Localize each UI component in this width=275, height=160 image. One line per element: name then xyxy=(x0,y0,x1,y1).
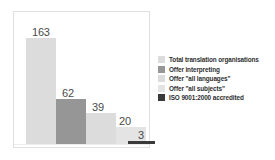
legend-swatch-icon xyxy=(158,75,165,82)
legend-swatch-icon xyxy=(158,94,165,101)
bar-total-translation-organisations xyxy=(26,38,56,144)
legend-item-offer-interpreting: Offer interpreting xyxy=(158,65,273,74)
bar-chart: 163 62 39 20 3 Total translation organis… xyxy=(0,0,275,160)
bar-label-39: 39 xyxy=(92,101,104,113)
plot-area: 163 62 39 20 3 xyxy=(14,12,149,147)
legend-item-total-translation-organisations: Total translation organisations xyxy=(158,55,273,64)
legend-label: Offer "all subjects" xyxy=(169,85,225,92)
chart-legend: Total translation organisations Offer in… xyxy=(158,55,273,103)
legend-item-offer-all-languages: Offer "all languages" xyxy=(158,74,273,83)
legend-swatch-icon xyxy=(158,56,165,63)
bar-label-62: 62 xyxy=(62,87,74,99)
plot-frame: 163 62 39 20 3 xyxy=(13,11,150,148)
baseline-axis xyxy=(14,144,149,145)
bar-iso-9001-2000-accredited xyxy=(128,141,155,144)
legend-label: Total translation organisations xyxy=(169,56,259,63)
legend-label: Offer interpreting xyxy=(169,66,220,73)
legend-label: Offer "all languages" xyxy=(169,75,231,82)
bar-label-20: 20 xyxy=(119,115,131,127)
bar-label-163: 163 xyxy=(32,26,50,38)
bar-offer-interpreting xyxy=(56,99,86,144)
bar-label-3: 3 xyxy=(138,129,144,141)
legend-item-iso-9001-2000-accredited: ISO 9001:2000 accredited xyxy=(158,93,273,102)
bar-offer-all-languages xyxy=(86,113,116,144)
legend-item-offer-all-subjects: Offer "all subjects" xyxy=(158,84,273,93)
legend-swatch-icon xyxy=(158,85,165,92)
legend-label: ISO 9001:2000 accredited xyxy=(169,94,244,101)
legend-swatch-icon xyxy=(158,66,165,73)
